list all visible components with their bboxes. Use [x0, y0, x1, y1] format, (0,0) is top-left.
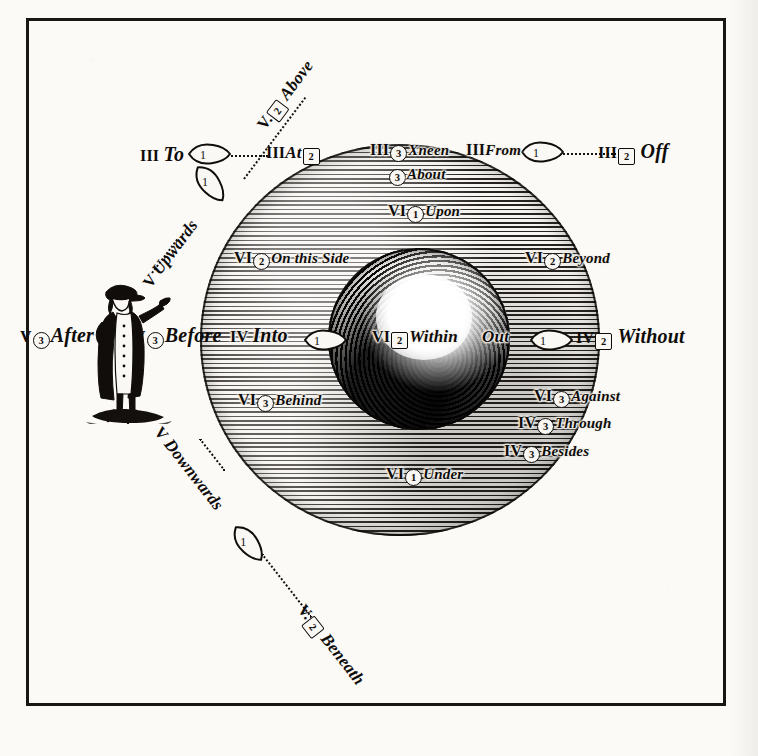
engraving-plate: 1 1 1 1 1 1	[0, 0, 758, 756]
label-after-word: After	[51, 324, 94, 346]
label-into-word: Into	[252, 324, 287, 346]
into-arrow-marker: 1	[302, 327, 348, 353]
label-about-number: 3	[389, 169, 406, 186]
label-against-word: Against	[571, 388, 620, 404]
svg-text:1: 1	[533, 146, 539, 160]
label-upon: VI1Upon	[388, 203, 460, 223]
label-besides-word: Besides	[541, 443, 589, 459]
label-after: V3After	[20, 325, 94, 349]
label-from: IIIFrom	[466, 142, 521, 158]
label-within-roman: VI	[372, 328, 390, 345]
label-after-number: 3	[33, 332, 50, 349]
label-beyond: VI2Beyond	[525, 250, 610, 270]
label-at-word: At	[285, 143, 301, 162]
label-about: 3About	[388, 166, 446, 186]
label-to-word: To	[163, 143, 184, 165]
label-off: III2 Off	[598, 141, 669, 165]
standing-man-figure	[84, 274, 176, 424]
label-against-number: 3	[553, 391, 570, 408]
label-before-roman: V	[134, 328, 146, 345]
svg-text:1: 1	[540, 334, 546, 348]
label-besides: IV3Besides	[504, 443, 589, 463]
label-before-word: Before	[165, 324, 222, 346]
svg-text:1: 1	[202, 175, 208, 189]
label-on-this-side-roman: VI	[234, 249, 252, 266]
label-off-number: 2	[618, 148, 635, 165]
label-without-number: 2	[595, 333, 612, 350]
label-into: IV Into	[230, 325, 288, 345]
label-to: III To	[140, 144, 184, 164]
label-xneen-number: 3	[390, 145, 407, 162]
label-upon-number: 1	[407, 206, 424, 223]
label-behind-number: 3	[257, 395, 274, 412]
label-besides-roman: IV	[504, 442, 522, 459]
label-at: IIIAt2	[266, 144, 321, 165]
from-arrow-marker: 1	[519, 139, 565, 165]
label-under-word: Under	[423, 466, 463, 482]
label-beyond-word: Beyond	[562, 250, 610, 266]
label-upon-roman: VI	[388, 202, 406, 219]
label-on-this-side: VI2On this Side	[234, 250, 349, 270]
label-upon-word: Upon	[425, 203, 460, 219]
label-after-roman: V	[20, 328, 32, 345]
label-xneen: III3Xneen	[370, 142, 449, 162]
label-through-roman: IV	[518, 414, 536, 431]
label-within-number: 2	[391, 332, 408, 349]
label-before-number: 3	[147, 332, 164, 349]
label-through-number: 3	[537, 418, 554, 435]
label-out-word: Out	[482, 327, 509, 346]
label-without-word: Without	[617, 325, 684, 347]
label-from-word: From	[485, 142, 521, 158]
label-besides-number: 3	[523, 446, 540, 463]
label-xneen-word: Xneen	[408, 142, 449, 158]
label-under-roman: VI	[386, 465, 404, 482]
label-at-roman: III	[266, 144, 285, 161]
label-from-roman: III	[466, 141, 485, 158]
label-at-number: 2	[303, 148, 320, 165]
label-against-roman: VI	[534, 387, 552, 404]
label-beyond-number: 2	[544, 253, 561, 270]
svg-text:1: 1	[314, 334, 320, 348]
label-out: Out	[482, 328, 509, 345]
label-behind: VI3Behind	[238, 392, 321, 412]
label-to-roman: III	[140, 147, 159, 164]
label-on-this-side-number: 2	[253, 253, 270, 270]
label-through-word: Through	[555, 415, 611, 431]
label-under: VI1Under	[386, 466, 463, 486]
svg-text:1: 1	[240, 535, 246, 549]
label-off-roman: III	[598, 144, 617, 161]
label-within: VI2Within	[372, 328, 458, 349]
label-within-word: Within	[409, 327, 458, 346]
label-behind-word: Behind	[275, 392, 321, 408]
label-without-roman: IV	[576, 329, 594, 346]
page-edge-shadow	[730, 0, 758, 756]
label-through: IV3Through	[518, 415, 612, 435]
label-under-number: 1	[405, 469, 422, 486]
label-xneen-roman: III	[370, 141, 389, 158]
label-behind-roman: VI	[238, 391, 256, 408]
label-before: V3Before	[134, 325, 222, 349]
label-into-roman: IV	[230, 328, 248, 345]
label-about-word: About	[407, 166, 446, 182]
label-beyond-roman: VI	[525, 249, 543, 266]
label-on-this-side-word: On this Side	[271, 250, 349, 266]
label-without: IV2 Without	[576, 326, 685, 350]
label-off-word: Off	[640, 140, 668, 162]
out-arrow-marker: 1	[528, 327, 574, 353]
label-against: VI3Against	[534, 388, 620, 408]
